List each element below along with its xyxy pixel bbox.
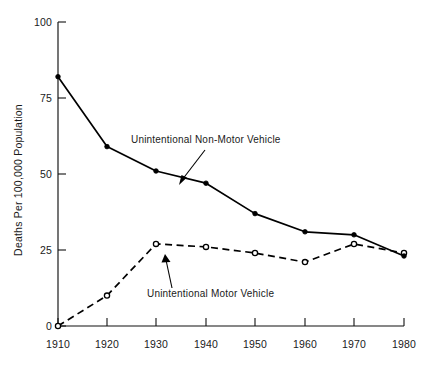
annotation-non-motor-vehicle-label: Unintentional Non-Motor Vehicle: [131, 134, 281, 145]
y-tick-label-25: 25: [40, 244, 52, 256]
x-tick-label-1920: 1920: [95, 338, 119, 350]
x-tick-label-1950: 1950: [243, 338, 267, 350]
non-motor-vehicle-point: [105, 144, 110, 149]
line-chart: 100 75 50 25 0 1910 1920 1930 1940 1950 …: [0, 0, 425, 367]
y-tick-labels: 100 75 50 25 0: [34, 16, 52, 332]
x-tick-label-1940: 1940: [194, 338, 218, 350]
annotation-motor-vehicle: Unintentional Motor Vehicle: [147, 254, 274, 299]
non-motor-vehicle-point: [352, 233, 357, 238]
y-tick-marks: [58, 22, 66, 326]
x-tick-label-1970: 1970: [342, 338, 366, 350]
motor-vehicle-point: [55, 323, 60, 328]
non-motor-vehicle-point: [253, 211, 258, 216]
series-unintentional-motor-vehicle: [55, 241, 406, 328]
chart-figure: 100 75 50 25 0 1910 1920 1930 1940 1950 …: [0, 0, 425, 367]
motor-vehicle-line: [58, 244, 404, 326]
non-motor-vehicle-point: [56, 74, 61, 79]
motor-vehicle-point: [153, 241, 158, 246]
y-axis-title: Deaths Per 100,000 Population: [12, 104, 24, 256]
annotation-motor-vehicle-label: Unintentional Motor Vehicle: [147, 288, 274, 299]
non-motor-vehicle-point: [303, 230, 308, 235]
y-tick-label-0: 0: [46, 320, 52, 332]
x-tick-labels: 1910 1920 1930 1940 1950 1960 1970 1980: [46, 338, 416, 350]
motor-vehicle-point: [351, 241, 356, 246]
axes: [58, 22, 404, 326]
non-motor-vehicle-point: [402, 254, 407, 259]
non-motor-vehicle-point: [154, 169, 159, 174]
series-unintentional-non-motor-vehicle: [56, 74, 407, 258]
y-tick-label-50: 50: [40, 168, 52, 180]
motor-vehicle-point: [203, 244, 208, 249]
x-tick-label-1980: 1980: [392, 338, 416, 350]
x-tick-label-1960: 1960: [293, 338, 317, 350]
y-tick-label-100: 100: [34, 16, 52, 28]
y-tick-label-75: 75: [40, 92, 52, 104]
non-motor-vehicle-point: [204, 181, 209, 186]
motor-vehicle-point: [252, 250, 257, 255]
non-motor-vehicle-line: [58, 77, 404, 256]
x-tick-label-1930: 1930: [144, 338, 168, 350]
x-tick-marks: [58, 318, 404, 326]
annotation-motor-vehicle-arrowhead: [162, 254, 171, 263]
motor-vehicle-point: [302, 260, 307, 265]
annotation-non-motor-vehicle: Unintentional Non-Motor Vehicle: [131, 134, 281, 185]
x-tick-label-1910: 1910: [46, 338, 70, 350]
annotation-motor-vehicle-leader: [166, 260, 172, 288]
motor-vehicle-point: [104, 293, 109, 298]
annotation-non-motor-vehicle-leader: [182, 150, 205, 180]
